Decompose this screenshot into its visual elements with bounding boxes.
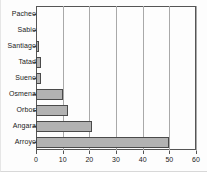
bar-row — [36, 86, 196, 102]
category-axis-label: Pacheo — [2, 10, 36, 18]
bar-row — [36, 134, 196, 150]
value-axis-tick — [196, 151, 197, 154]
bar-row — [36, 118, 196, 134]
bar-row — [36, 22, 196, 38]
value-axis-tick-label: 0 — [26, 155, 46, 164]
category-axis-label: Sabio — [2, 26, 36, 34]
bar-row — [36, 70, 196, 86]
category-axis-label: Orbos — [2, 106, 36, 114]
bar-row — [36, 6, 196, 22]
category-axis-label: Osmena — [2, 90, 36, 98]
value-axis-tick — [63, 151, 64, 154]
category-axis-label: Sueno — [2, 74, 36, 82]
category-axis-label: Arroyo — [2, 138, 36, 146]
bar[interactable] — [36, 105, 68, 116]
value-axis-tick — [169, 151, 170, 154]
bar[interactable] — [36, 137, 169, 148]
value-axis-tick — [143, 151, 144, 154]
value-axis-tick-label: 20 — [79, 155, 99, 164]
value-axis-tick — [116, 151, 117, 154]
bar[interactable] — [36, 57, 41, 68]
value-axis-tick — [89, 151, 90, 154]
value-axis-tick — [36, 151, 37, 154]
gridline — [196, 6, 197, 151]
value-axis-labels: 0102030405060 — [36, 151, 196, 167]
bar-row — [36, 54, 196, 70]
category-axis-label: Angara — [2, 122, 36, 130]
category-axis-label: Tatad — [2, 58, 36, 66]
bar[interactable] — [36, 73, 41, 84]
bar-chart: PacheoSabioSantiagoTatadSuenoOsmenaOrbos… — [0, 0, 207, 172]
value-axis-tick-label: 40 — [133, 155, 153, 164]
value-axis-tick-label: 30 — [106, 155, 126, 164]
bar[interactable] — [36, 41, 39, 52]
bar[interactable] — [36, 121, 92, 132]
value-axis-tick-label: 60 — [186, 155, 206, 164]
value-axis-tick-label: 50 — [159, 155, 179, 164]
bar-row — [36, 38, 196, 54]
category-axis-label: Santiago — [2, 42, 36, 50]
value-axis-tick-label: 10 — [53, 155, 73, 164]
bar[interactable] — [36, 89, 63, 100]
bars-layer — [36, 6, 196, 150]
bar-row — [36, 102, 196, 118]
category-axis-labels: PacheoSabioSantiagoTatadSuenoOsmenaOrbos… — [0, 6, 36, 150]
